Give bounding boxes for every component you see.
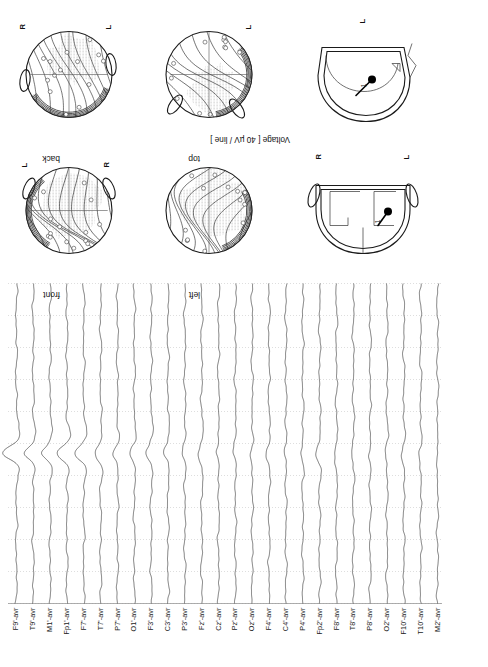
eeg-channel-label-column: F9'-avrT9'-avrM1'-avrFp1'-avrF7'-avrT7'-… [8,605,446,659]
eeg-trace [182,283,186,603]
dipole-coronal-right-marker: R [314,154,323,159]
voltage-scale-caption: Voltage [ 40 µV / line ] [210,134,290,143]
dipole-coronal-svg [300,143,426,269]
eeg-trace-panel: F9'-avrT9'-avrM1'-avrFp1'-avrF7'-avrT7'-… [8,281,480,659]
electrode-marker [190,173,194,177]
electrode-marker [172,61,176,65]
eeg-channel-label: O1'-avr [129,607,138,631]
dipole-sagittal-svg [300,7,426,133]
eeg-trace [113,283,120,603]
eeg-channel-label: T8'-avr [348,607,357,630]
eeg-trace [301,283,305,603]
eeg-trace [419,283,422,603]
isocontour-line [155,153,183,252]
electrode-marker [65,239,69,243]
eeg-channel-label: M2'-avr [433,607,442,631]
rotated-figure: F9'-avrT9'-avrM1'-avrFp1'-avrF7'-avrT7'-… [0,0,488,667]
dipole-sagittal-left-marker: L [358,18,367,23]
topomap-back-label: back [42,153,60,163]
eeg-trace [198,283,203,603]
topomap-left-label: left [189,289,200,299]
brain-structure [330,217,348,225]
ear-marker [19,68,32,91]
topomap-left [150,151,268,269]
eeg-channel-label: Pz'-avr [230,607,239,630]
eeg-channel-label: F3'-avr [146,607,155,630]
eeg-channel-label: F4'-avr [264,607,273,630]
eeg-channel-label: P8'-avr [365,607,374,630]
topography-and-dipole-panel: front L R back R L left [4,7,484,275]
electrode-marker [46,78,50,82]
eeg-trace [335,283,338,603]
ear-marker [165,92,186,116]
eeg-trace [385,283,389,603]
ear-marker [306,182,323,208]
eeg-trace [436,283,439,603]
dipole-view-coronal [300,143,426,269]
eeg-trace [57,283,70,603]
topomap-front-right-marker: R [102,162,111,167]
electrode-marker [33,196,37,200]
eeg-channel-label: F7'-avr [79,607,88,630]
eeg-trace [75,283,87,603]
topomap-front-left-marker: L [20,162,29,167]
electrode-marker [77,105,81,109]
electrode-marker [169,76,173,80]
topomap-back-svg [10,15,128,133]
dipole-coronal-number: 1 [374,219,381,223]
eeg-channel-label: T9'-avr [28,607,37,630]
eeg-waveform-plot [8,283,446,603]
brainstem-marker [392,63,400,71]
dipole-view-sagittal [300,7,426,133]
figure-canvas: F9'-avrT9'-avrM1'-avrFp1'-avrF7'-avrT7'-… [0,0,488,667]
dipole-sagittal-number: 1 [360,83,367,87]
electrode-marker [198,111,202,115]
eeg-trace [250,283,254,603]
eeg-trace [3,283,20,603]
eeg-channel-label: Oz'-avr [247,607,256,631]
eeg-channel-label: P4'-avr [298,607,307,630]
topomap-back [10,15,128,133]
topomap-top-svg [150,15,268,133]
eeg-channel-label: C3'-avr [163,607,172,631]
eeg-channel-label: F8'-avr [332,607,341,630]
electrode-marker [101,59,105,63]
eeg-trace [233,283,237,603]
topomap-back-left-marker: L [104,24,113,29]
eeg-trace [95,283,103,603]
topomap-shaded-region [187,62,236,113]
eeg-channel-label: Cz'-avr [214,607,223,630]
eeg-channel-label: F10'-avr [399,607,408,634]
eeg-waveform-svg [8,283,446,603]
eeg-channel-label: Fp2'-avr [315,607,324,634]
eeg-trace [266,283,271,603]
eeg-trace [24,283,36,603]
eeg-channel-label: Fz'-avr [197,607,206,629]
topomap-front-label: front [43,289,60,299]
electrode-marker [72,246,76,250]
eeg-channel-label: O2'-avr [382,607,391,631]
eeg-trace [164,283,170,603]
eeg-trace [369,283,372,603]
topomap-back-right-marker: R [18,24,27,29]
eeg-channel-label: M1'-avr [45,607,54,631]
eeg-channel-label: F9'-avr [11,607,20,630]
electrode-marker [203,40,207,44]
eeg-trace [284,283,287,603]
electrode-marker [87,82,91,86]
ear-marker [404,182,421,208]
eeg-channel-label: Fp1'-avr [62,607,71,634]
eeg-channel-label: C4'-avr [281,607,290,631]
eeg-trace [216,283,220,603]
electrode-marker [184,228,188,232]
electrode-marker [97,52,101,56]
eeg-trace [401,283,405,603]
brain-structure [330,191,360,225]
topomap-front-svg [10,151,128,269]
eeg-trace [316,283,322,603]
eeg-channel-label: P7'-avr [113,607,122,630]
dipole-point [384,207,392,215]
topomap-left-svg [150,151,268,269]
topomap-front [10,151,128,269]
eeg-trace [42,283,53,603]
